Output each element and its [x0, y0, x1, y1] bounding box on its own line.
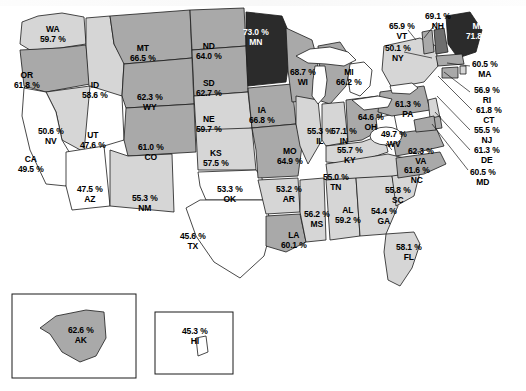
state-abbr-ny: NY — [385, 54, 411, 64]
state-abbr-tn: TN — [323, 183, 349, 193]
leader-ct — [438, 76, 472, 110]
state-label-mi: MI66.2 % — [336, 68, 362, 87]
state-value-la: 60.1 % — [281, 241, 307, 251]
state-abbr-ky: KY — [337, 156, 363, 166]
state-label-ny: 50.1 %NY — [385, 44, 411, 63]
state-value-or: 61.8 % — [14, 81, 40, 91]
state-label-mn: 73.0 %MN — [243, 28, 269, 47]
state-label-al: AL59.2 % — [335, 206, 361, 225]
state-label-or: OR61.8 % — [14, 71, 40, 90]
state-abbr-ga: GA — [371, 217, 397, 227]
state-label-nm: 55.3 %NM — [132, 194, 158, 213]
state-abbr-mn: MN — [243, 38, 269, 48]
state-label-wy: 62.3 %WY — [137, 93, 163, 112]
state-label-ak: 62.6 %AK — [68, 326, 94, 345]
state-abbr-co: CO — [138, 153, 164, 163]
state-label-ne: NE59.7 % — [196, 115, 222, 134]
state-abbr-nm: NM — [132, 204, 158, 214]
state-label-wi: 68.7 %WI — [290, 68, 316, 87]
state-label-me: ME71.8 % — [466, 22, 492, 41]
state-label-sc: 55.8 %SC — [385, 186, 411, 205]
state-value-me: 71.8 % — [466, 32, 492, 42]
state-label-in: 57.1 %IN — [331, 127, 357, 146]
state-value-ne: 59.7 % — [196, 125, 222, 135]
state-abbr-ok: OK — [217, 195, 243, 205]
state-ma[interactable] — [436, 54, 464, 66]
state-value-ks: 57.5 % — [203, 159, 229, 169]
state-label-fl: 58.1 %FL — [396, 243, 422, 262]
state-abbr-ak: AK — [68, 336, 94, 346]
state-label-mo: MO64.9 % — [277, 147, 303, 166]
state-abbr-hi: HI — [182, 337, 208, 347]
state-abbr-wy: WY — [137, 103, 163, 113]
state-label-az: 47.5 %AZ — [77, 185, 103, 204]
state-abbr-va: VA — [408, 157, 434, 167]
state-abbr-az: AZ — [77, 195, 103, 205]
state-value-ca: 49.5 % — [18, 165, 44, 175]
state-value-wa: 59.7 % — [40, 35, 66, 45]
state-abbr-oh: OH — [358, 123, 384, 133]
state-label-nc: 61.6 %NC — [404, 166, 430, 185]
state-abbr-nj: NJ — [474, 136, 500, 146]
state-label-ri: 56.9 %RI — [474, 86, 500, 105]
state-value-nd: 64.0 % — [196, 52, 222, 62]
state-label-nv: 50.6 %NV — [38, 127, 64, 146]
state-label-ia: IA66.8 % — [249, 106, 275, 125]
state-value-ia: 66.8 % — [249, 116, 275, 126]
state-label-ut: UT47.6 % — [80, 131, 106, 150]
state-abbr-il: IL — [307, 137, 333, 147]
state-label-nj: 55.5 %NJ — [474, 126, 500, 145]
state-label-il: 55.3 %IL — [307, 127, 333, 146]
state-abbr-ma: MA — [472, 70, 498, 80]
state-abbr-ar: AR — [276, 195, 302, 205]
leader-nj — [437, 96, 470, 130]
state-label-tn: 55.0 %TN — [323, 173, 349, 192]
state-label-id: ID58.6 % — [82, 81, 108, 100]
state-label-co: 61.0 %CO — [138, 143, 164, 162]
state-label-ar: 53.2 %AR — [276, 185, 302, 204]
state-label-md: 60.5 %MD — [470, 168, 496, 187]
state-value-mi: 66.2 % — [336, 78, 362, 88]
state-label-sd: SD62.7 % — [196, 79, 222, 98]
state-label-ky: 55.7 %KY — [337, 146, 363, 165]
state-value-id: 58.6 % — [82, 91, 108, 101]
state-label-mt: MT66.5 % — [130, 44, 156, 63]
state-label-wa: WA59.7 % — [40, 25, 66, 44]
state-label-ga: 54.4 %GA — [371, 207, 397, 226]
state-label-nh: 69.1 %NH — [425, 12, 451, 31]
state-abbr-ct: CT — [476, 116, 502, 126]
state-value-al: 59.2 % — [335, 216, 361, 226]
state-abbr-de: DE — [474, 156, 500, 166]
state-label-la: LA60.1 % — [281, 231, 307, 250]
state-abbr-sc: SC — [385, 196, 411, 206]
state-label-vt: 65.9 %VT — [389, 22, 415, 41]
choropleth-map: WA59.7 %OR61.8 %ID58.6 %MT66.5 %ND64.0 %… — [0, 0, 526, 391]
state-abbr-nc: NC — [404, 176, 430, 186]
state-value-mt: 66.5 % — [130, 54, 156, 64]
state-label-nd: ND64.0 % — [196, 42, 222, 61]
state-label-ms: 56.2 %MS — [304, 210, 330, 229]
state-value-ut: 47.6 % — [80, 141, 106, 151]
state-ri[interactable] — [460, 66, 466, 74]
state-label-de: 61.3 %DE — [474, 146, 500, 165]
state-abbr-pa: PA — [395, 110, 421, 120]
state-abbr-wv: WV — [381, 140, 407, 150]
state-abbr-ms: MS — [304, 220, 330, 230]
state-label-hi: 45.3 %HI — [182, 327, 208, 346]
state-label-ca: CA49.5 % — [18, 155, 44, 174]
state-abbr-wi: WI — [290, 78, 316, 88]
state-label-va: 62.3 %VA — [408, 147, 434, 166]
state-abbr-tx: TX — [180, 242, 206, 252]
state-value-mo: 64.9 % — [277, 157, 303, 167]
state-label-pa: 61.3 %PA — [395, 100, 421, 119]
state-value-sd: 62.7 % — [196, 89, 222, 99]
state-abbr-vt: VT — [389, 32, 415, 42]
state-label-ks: KS57.5 % — [203, 149, 229, 168]
state-label-ok: 53.3 %OK — [217, 185, 243, 204]
state-abbr-nh: NH — [425, 22, 451, 32]
state-label-tx: 45.6 %TX — [180, 232, 206, 251]
state-mn[interactable] — [246, 12, 292, 86]
state-label-wv: 49.7 %WV — [381, 130, 407, 149]
state-nh[interactable] — [434, 28, 448, 54]
state-abbr-md: MD — [470, 178, 496, 188]
